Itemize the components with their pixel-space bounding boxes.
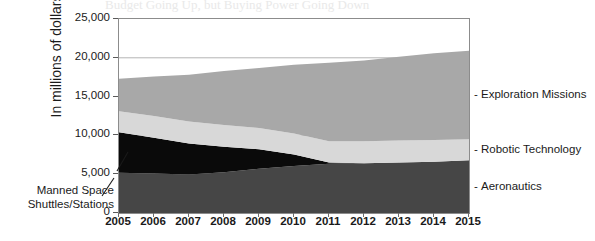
area-series-svg — [119, 19, 469, 213]
y-tick-label: 10,000 — [52, 128, 110, 139]
legend-label: Exploration Missions — [481, 88, 586, 100]
y-tick-label: 5,000 — [52, 167, 110, 178]
manned-space-callout: Manned Space Shuttles/Stations — [2, 183, 114, 211]
stacked-area-chart-figure: Budget Going Up, but Buying Power Going … — [0, 0, 595, 241]
x-tick-mark — [468, 213, 469, 217]
legend-item-exploration-missions: -Exploration Missions — [474, 88, 586, 100]
x-tick-mark — [153, 213, 154, 217]
legend-item-robotic-technology: -Robotic Technology — [474, 143, 581, 155]
x-tick-mark — [223, 213, 224, 217]
y-tick-mark — [113, 18, 118, 19]
x-tick-mark — [118, 213, 119, 217]
legend-dash-marker: - — [474, 88, 481, 100]
legend-label: Aeronautics — [481, 180, 542, 192]
plot-area — [118, 18, 470, 214]
background-bleed-title: Budget Going Up, but Buying Power Going … — [105, 0, 505, 13]
legend-dash-marker: - — [474, 143, 481, 155]
x-tick-mark — [398, 213, 399, 217]
x-tick-mark — [433, 213, 434, 217]
callout-line-1: Manned Space — [2, 183, 114, 197]
y-tick-label: 20,000 — [52, 51, 110, 62]
x-tick-mark — [363, 213, 364, 217]
y-tick-mark — [113, 173, 118, 174]
legend-label: Robotic Technology — [481, 143, 581, 155]
x-tick-mark — [328, 213, 329, 217]
y-tick-label: 15,000 — [52, 90, 110, 101]
x-tick-mark — [188, 213, 189, 217]
x-tick-mark — [258, 213, 259, 217]
y-tick-label: 25,000 — [52, 12, 110, 23]
y-tick-mark — [113, 96, 118, 97]
series-paths — [119, 51, 469, 213]
callout-line-2: Shuttles/Stations — [2, 197, 114, 211]
y-tick-mark — [113, 57, 118, 58]
legend-dash-marker: - — [474, 180, 481, 192]
x-tick-mark — [293, 213, 294, 217]
y-tick-mark — [113, 134, 118, 135]
legend-item-aeronautics: -Aeronautics — [474, 180, 542, 192]
